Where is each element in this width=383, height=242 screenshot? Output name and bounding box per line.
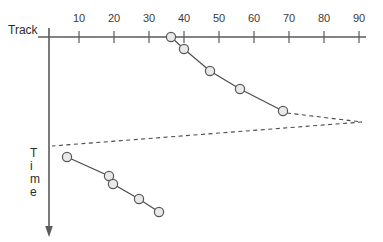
time-axis-letter-i: i — [30, 159, 33, 173]
time-axis-arrow-icon — [45, 226, 53, 237]
vertical-axis-group: Time — [30, 28, 53, 237]
dashed-connectors — [52, 113, 362, 146]
track-axis-tick-labels: 102030405060708090 — [73, 12, 365, 24]
horizontal-axis-group: Track 102030405060708090 — [8, 12, 366, 43]
tick-label-30: 30 — [143, 12, 155, 24]
data-point[interactable] — [179, 44, 188, 53]
tick-label-60: 60 — [248, 12, 260, 24]
series-upper-sweep — [166, 32, 287, 115]
tick-label-70: 70 — [283, 12, 295, 24]
dashed-upper-return — [287, 113, 362, 122]
data-point[interactable] — [134, 194, 143, 203]
dashed-lower-return — [52, 122, 362, 146]
tick-label-40: 40 — [178, 12, 190, 24]
tick-label-50: 50 — [213, 12, 225, 24]
data-point[interactable] — [278, 106, 287, 115]
track-vs-time-diagram: Track 102030405060708090 Time — [0, 0, 383, 242]
data-point[interactable] — [62, 152, 71, 161]
time-axis-title: Time — [30, 146, 40, 199]
data-point[interactable] — [166, 32, 175, 41]
time-axis-letter-m: m — [30, 172, 40, 186]
tick-label-10: 10 — [73, 12, 85, 24]
series-lower-sweep — [62, 152, 163, 216]
tick-label-90: 90 — [353, 12, 365, 24]
time-axis-letter-t: T — [30, 146, 38, 160]
tick-label-20: 20 — [108, 12, 120, 24]
tick-label-80: 80 — [318, 12, 330, 24]
time-axis-letter-e: e — [30, 185, 37, 199]
data-point[interactable] — [154, 207, 163, 216]
data-point[interactable] — [108, 179, 117, 188]
track-axis-title: Track — [8, 23, 39, 37]
data-point[interactable] — [235, 84, 244, 93]
data-point[interactable] — [205, 66, 214, 75]
